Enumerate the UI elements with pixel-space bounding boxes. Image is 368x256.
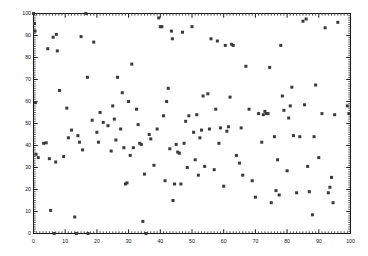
data-point [301,20,304,23]
data-point [257,112,260,115]
y-tick-label: 30 [25,164,31,170]
data-point [141,220,144,223]
data-point [81,148,84,151]
data-point [80,35,83,38]
data-point [313,135,316,138]
data-point [333,113,336,116]
x-tick-label: 70 [253,238,259,244]
data-point [156,128,159,131]
data-point [165,100,168,103]
data-point [278,194,281,197]
y-tick-label: 90 [25,32,31,38]
data-point [219,126,222,129]
data-point [97,141,100,144]
data-point [292,134,295,137]
data-point [303,103,306,106]
data-point [305,18,308,21]
data-point [62,155,65,158]
data-point [347,112,350,115]
y-tick-label: 20 [25,186,31,192]
data-point [306,165,309,168]
data-point [76,134,79,137]
data-point [179,183,182,186]
data-point [336,21,339,24]
data-point [92,41,95,44]
data-point [171,37,174,40]
x-tick-label: 90 [316,238,322,244]
data-point [122,146,125,149]
data-point [54,161,57,164]
data-point [91,119,94,122]
data-point [248,108,251,111]
data-point [290,86,293,89]
data-point [206,92,209,95]
x-tick-label: 60 [221,238,227,244]
y-tick-label: 50 [25,120,31,126]
data-point [178,152,181,155]
data-point [35,153,38,156]
data-point [171,199,174,202]
data-point [227,125,230,128]
data-point [232,44,235,47]
data-point [184,120,187,123]
data-point [116,76,119,79]
y-tick-label: 60 [25,98,31,104]
data-point [240,126,243,129]
data-point [87,232,90,235]
data-point [52,36,55,39]
y-tick-label: 0 [28,230,31,236]
data-point [132,146,135,149]
data-point [327,191,330,194]
data-point [222,185,225,188]
data-point [67,136,70,139]
tick-labels-layer: 0102030405060708090100010203040506070809… [22,10,355,244]
x-tick-label: 40 [157,238,163,244]
x-tick-label: 20 [94,238,100,244]
data-point [225,130,228,133]
y-tick-label: 80 [25,54,31,60]
data-point [276,158,279,161]
data-point [130,63,133,66]
data-point [203,165,206,168]
data-point [75,232,78,235]
data-point [157,16,160,19]
data-point [314,84,317,87]
x-tick-label: 10 [62,238,68,244]
data-point [129,154,132,157]
data-point [229,96,232,99]
data-points-layer [32,12,350,235]
data-point [65,107,68,110]
x-tick-label: 0 [32,238,35,244]
data-point [34,101,37,104]
x-tick-label: 50 [189,238,195,244]
data-point [244,65,247,68]
data-point [170,30,173,33]
plot-canvas: 0102030405060708090100010203040506070809… [0,0,368,256]
scatter-plot-figure: 0102030405060708090100010203040506070809… [0,0,368,256]
x-tick-label: 30 [126,238,132,244]
data-point [267,112,270,115]
data-point [298,135,301,138]
data-point [45,141,48,144]
data-point [238,162,241,165]
data-point [78,141,81,144]
data-point [282,109,285,112]
data-point [56,49,59,52]
data-point [137,123,140,126]
data-point [173,183,176,186]
data-point [140,143,143,146]
data-point [324,26,327,29]
data-point [200,129,203,132]
plot-axes-layer [34,14,351,234]
y-tick-label: 100 [22,10,31,16]
data-point [273,135,276,138]
data-point [235,154,238,157]
data-point [197,174,200,177]
data-point [254,196,257,199]
data-point [149,137,152,140]
data-point [208,128,211,131]
data-point [32,12,35,15]
data-point [126,181,129,184]
data-point [106,124,109,127]
data-point [110,150,113,153]
